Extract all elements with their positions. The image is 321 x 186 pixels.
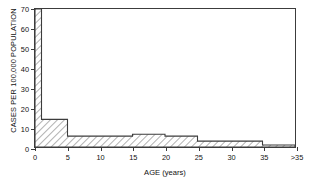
- y-axis-tick: [31, 69, 35, 70]
- plot-inner: 01020304050607005101520253035>35: [35, 9, 295, 147]
- x-axis-title: AGE (years): [34, 168, 296, 177]
- histogram-fill: [35, 9, 295, 147]
- plot-area: 01020304050607005101520253035>35: [34, 8, 296, 148]
- y-axis-tick-label: 20: [21, 105, 29, 114]
- bar-group: [35, 9, 295, 147]
- x-axis-tick: [199, 147, 200, 151]
- y-axis-tick: [31, 129, 35, 130]
- y-axis-tick-label: 50: [21, 45, 29, 54]
- y-axis-tick-label: 10: [21, 125, 29, 134]
- x-axis-tick-label: 20: [162, 153, 170, 162]
- x-axis-tick: [166, 147, 167, 151]
- x-axis-tick-label: 15: [129, 153, 137, 162]
- x-axis-tick-label: >35: [291, 153, 304, 162]
- histogram-bars: [35, 9, 295, 147]
- x-axis-tick: [297, 147, 298, 151]
- histogram-outline: [35, 9, 295, 147]
- x-axis-tick: [35, 147, 36, 151]
- x-axis-tick: [68, 147, 69, 151]
- y-axis-tick-label: 30: [21, 85, 29, 94]
- y-axis-tick: [31, 89, 35, 90]
- x-axis-tick-label: 5: [66, 153, 70, 162]
- x-axis-tick-label: 35: [260, 153, 268, 162]
- x-axis-tick-label: 0: [33, 153, 37, 162]
- y-axis-tick-label: 40: [21, 65, 29, 74]
- y-axis-tick: [31, 29, 35, 30]
- y-axis-tick-label: 70: [21, 5, 29, 14]
- y-axis-tick: [31, 109, 35, 110]
- y-axis-tick-label: 60: [21, 25, 29, 34]
- x-axis-tick: [101, 147, 102, 151]
- x-axis-tick: [232, 147, 233, 151]
- y-axis-tick: [31, 9, 35, 10]
- y-axis-title: CASES PER 100,000 POPULATION: [9, 0, 18, 147]
- x-axis-tick-label: 10: [96, 153, 104, 162]
- x-axis-tick: [133, 147, 134, 151]
- histogram-figure: CASES PER 100,000 POPULATION 01020304050…: [0, 0, 321, 186]
- x-axis-tick-label: 30: [227, 153, 235, 162]
- x-axis-tick: [264, 147, 265, 151]
- x-axis-tick-label: 25: [195, 153, 203, 162]
- y-axis-tick-label: 0: [25, 145, 29, 154]
- y-axis-tick: [31, 49, 35, 50]
